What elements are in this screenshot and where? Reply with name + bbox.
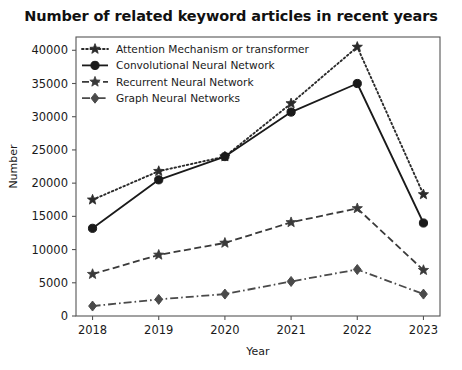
chart-figure: Number of related keyword articles in re… <box>0 0 462 370</box>
legend-label: Convolutional Neural Network <box>116 59 276 71</box>
y-tick-label: 10000 <box>31 243 68 257</box>
legend-label: Graph Neural Networks <box>116 92 240 104</box>
y-tick-label: 15000 <box>31 209 68 223</box>
data-point-marker <box>353 79 361 87</box>
y-tick-label: 30000 <box>31 110 68 124</box>
legend-item[interactable]: Attention Mechanism or transformer <box>82 43 309 55</box>
y-axis-ticks: 0500010000150002000025000300003500040000 <box>31 43 76 323</box>
x-tick-label: 2020 <box>210 323 239 337</box>
x-tick-label: 2018 <box>78 323 107 337</box>
data-point-marker <box>88 224 96 232</box>
y-tick-label: 0 <box>61 309 68 323</box>
data-point-marker <box>221 152 229 160</box>
y-tick-label: 20000 <box>31 176 68 190</box>
y-tick-label: 35000 <box>31 77 68 91</box>
x-tick-label: 2023 <box>409 323 438 337</box>
x-tick-label: 2022 <box>343 323 372 337</box>
x-tick-label: 2021 <box>276 323 305 337</box>
data-point-marker <box>287 108 295 116</box>
x-axis-ticks: 201820192020202120222023 <box>78 316 438 337</box>
legend-marker-swatch <box>91 61 99 69</box>
data-point-marker <box>155 176 163 184</box>
legend-label: Recurrent Neural Network <box>116 76 254 88</box>
y-tick-label: 25000 <box>31 143 68 157</box>
legend-label: Attention Mechanism or transformer <box>116 43 309 55</box>
y-tick-label: 40000 <box>31 43 68 57</box>
x-tick-label: 2019 <box>144 323 173 337</box>
data-point-marker <box>419 219 427 227</box>
plot-area: 0500010000150002000025000300003500040000… <box>0 0 462 370</box>
y-tick-label: 5000 <box>39 276 68 290</box>
